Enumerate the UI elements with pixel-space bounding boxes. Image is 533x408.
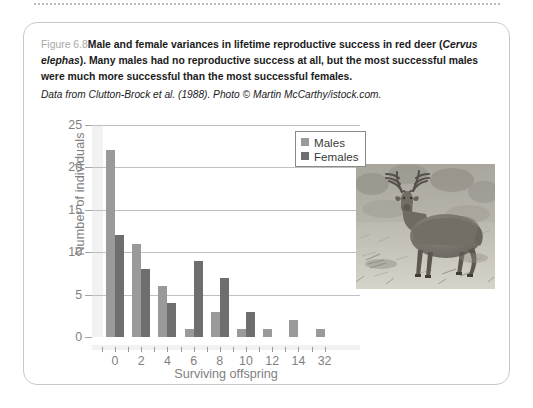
y-tick-label: 5– [75,288,92,302]
bar-females-6 [194,261,203,337]
x-tick-mark [167,347,168,352]
legend-label-males: Males [314,136,345,149]
bar-males-32 [316,329,325,337]
x-axis-line [92,345,360,350]
caption-rest: ). Many males had no reproductive succes… [41,55,478,82]
top-dotted-rule [34,3,500,5]
bar-group [106,125,124,337]
deer-photo-illustration [356,164,495,289]
bar-males-8 [211,312,220,337]
bar-females-8 [220,278,229,337]
x-minor-tick-mark [259,347,260,352]
legend-swatch-males [301,138,309,146]
bar-females-0 [115,235,124,337]
legend-item-males: Males [301,135,358,149]
bar-group [211,125,229,337]
bar-males-2 [132,244,141,337]
bar-group [185,125,203,337]
x-minor-tick-mark [102,347,103,352]
x-tick-label: 10 [239,354,253,368]
y-tick-label: 10– [68,245,92,259]
figure-caption: Figure 6.8Male and female variances in l… [41,37,496,103]
x-tick-label: 4 [164,354,171,368]
x-tick-mark [272,347,273,352]
x-tick-mark [141,347,142,352]
figure-number: Figure 6.8 [41,39,88,50]
y-tick-label: 15– [68,203,92,217]
bar-group [237,125,255,337]
x-tick-label: 14 [291,354,305,368]
x-tick-mark [246,347,247,352]
legend-swatch-females [301,152,309,160]
x-minor-tick-mark [181,347,182,352]
x-tick-mark [298,347,299,352]
bar-group [132,125,150,337]
bar-group [263,125,281,337]
bar-chart: Number of individuals 0–5–10–15–20–25– 0… [48,117,368,379]
caption-source: Data from Clutton-Brock et al. (1988). P… [41,87,496,103]
x-minor-tick-mark [233,347,234,352]
bar-group [158,125,176,337]
x-tick-label: 0 [112,354,119,368]
y-tick-label: 0– [75,330,92,344]
bar-females-4 [167,303,176,337]
x-tick-label: 6 [190,354,197,368]
x-minor-tick-mark [285,347,286,352]
x-tick-mark [115,347,116,352]
x-minor-tick-mark [154,347,155,352]
x-minor-tick-mark [312,347,313,352]
y-tick-label: 25– [68,118,92,132]
bar-females-10 [246,312,255,337]
legend-item-females: Females [301,149,358,163]
y-axis-ticks: 0–5–10–15–20–25– [48,125,92,337]
y-tick-label: 20– [68,160,92,174]
chart-legend: Males Females [295,131,366,167]
bar-males-10 [237,329,246,337]
x-minor-tick-mark [207,347,208,352]
caption-main: Male and female variances in lifetime re… [88,39,443,50]
red-deer-photo [356,164,495,289]
bar-males-0 [106,150,115,337]
x-tick-label: 32 [318,354,332,368]
x-tick-label: 2 [138,354,145,368]
bar-males-14 [289,320,298,337]
legend-label-females: Females [314,150,358,163]
x-tick-mark [325,347,326,352]
x-tick-mark [194,347,195,352]
x-minor-tick-mark [128,347,129,352]
bar-males-4 [158,286,167,337]
x-axis-title: Surviving offspring [92,367,360,381]
x-tick-mark [220,347,221,352]
bar-males-6 [185,329,194,337]
plot-area: 0246810121432 Males Females [92,125,360,337]
bar-males-12 [263,329,272,337]
bar-females-2 [141,269,150,337]
x-tick-label: 8 [216,354,223,368]
figure-card: Figure 6.8Male and female variances in l… [23,22,510,385]
x-tick-label: 12 [265,354,279,368]
